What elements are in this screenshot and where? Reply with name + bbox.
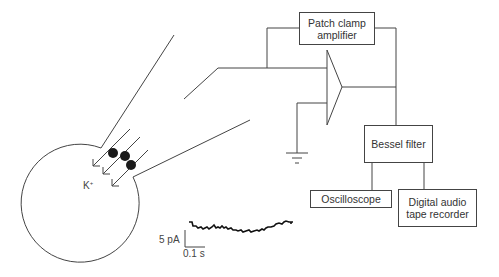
amplifier-label-line1: Patch clamp [308, 17, 366, 29]
feedback-wire-left [267, 28, 299, 68]
recorder-label-line1: Digital audio [409, 196, 467, 208]
digital-audio-tape-recorder-box: Digital audio tape recorder [398, 189, 477, 227]
current-trace [189, 221, 293, 232]
recorder-label-line2: tape recorder [406, 208, 468, 220]
bessel-filter-box: Bessel filter [364, 125, 433, 163]
pipette-lower-wall [133, 120, 250, 177]
scale-current-label: 5 pA [159, 234, 180, 245]
oscilloscope-box: Oscilloscope [310, 190, 392, 208]
filter-label: Bessel filter [371, 138, 425, 150]
electrode-wire [184, 68, 327, 99]
ground-wire [297, 103, 327, 153]
potassium-ion-label: K+ [83, 180, 93, 191]
feedback-wire-right [374, 28, 396, 125]
patch-clamp-amplifier-box: Patch clamp amplifier [299, 12, 375, 45]
cell-membrane [21, 144, 139, 262]
ion-channels [108, 148, 136, 170]
op-amp-symbol [327, 50, 342, 125]
scale-time-label: 0.1 s [183, 248, 205, 259]
pipette-upper-wall [101, 35, 174, 148]
scale-bar [185, 230, 205, 247]
oscilloscope-label: Oscilloscope [321, 193, 381, 205]
amplifier-label-line2: amplifier [317, 29, 357, 41]
